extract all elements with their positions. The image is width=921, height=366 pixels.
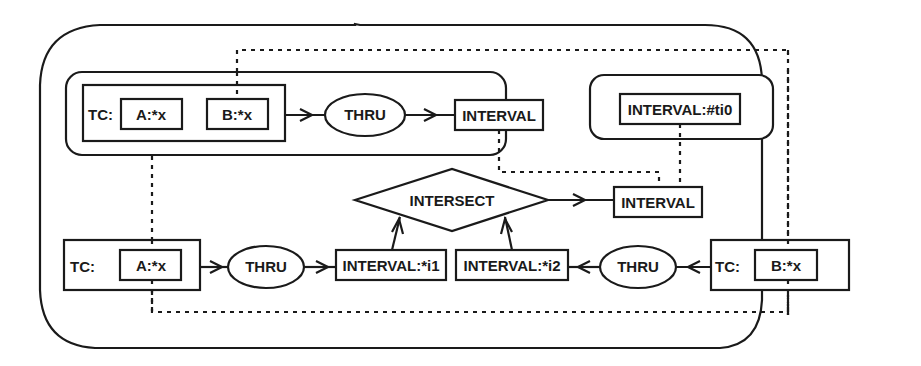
middle-interval-label: INTERVAL	[621, 194, 695, 211]
top-tc-label: TC:	[88, 106, 113, 123]
bottom-right-tc-label: TC:	[715, 258, 740, 275]
top-thru-label: THRU	[344, 106, 386, 123]
bottom-right-thru-label: THRU	[617, 258, 659, 275]
bottom-left-tc-label: TC:	[70, 258, 95, 275]
top-concept-a-label: A:*x	[136, 106, 167, 123]
bottom-left-concept-a-label: A:*x	[136, 257, 167, 274]
bottom-left-thru-label: THRU	[245, 258, 287, 275]
top-concept-b-label: B:*x	[222, 106, 253, 123]
conceptual-graph-diagram: TC: A:*x B:*x THRU INTERVAL INTERVAL:#ti…	[0, 0, 921, 366]
bottom-right-concept-b-label: B:*x	[771, 257, 802, 274]
interval-i1-label: INTERVAL:*i1	[343, 257, 440, 274]
intersect-label: INTERSECT	[409, 192, 494, 209]
interval-i2-label: INTERVAL:*i2	[464, 257, 561, 274]
coreferent-interval-label: INTERVAL:#ti0	[628, 101, 732, 118]
top-interval-label: INTERVAL	[462, 107, 536, 124]
